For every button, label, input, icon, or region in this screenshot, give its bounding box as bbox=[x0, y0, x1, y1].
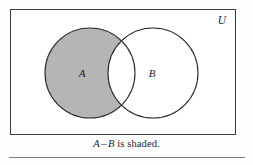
caption-right-set: B bbox=[108, 138, 115, 149]
set-a-label: A bbox=[78, 67, 86, 79]
venn-diagram-figure: U A B A–B is shaded. bbox=[0, 0, 253, 165]
universal-set-label: U bbox=[218, 14, 227, 26]
caption-left-set: A bbox=[93, 138, 100, 149]
bottom-divider bbox=[9, 157, 245, 158]
set-b-label: B bbox=[149, 67, 156, 79]
caption-suffix: is shaded. bbox=[117, 138, 159, 149]
figure-caption: A–B is shaded. bbox=[0, 138, 253, 149]
caption-operator: – bbox=[100, 138, 108, 149]
